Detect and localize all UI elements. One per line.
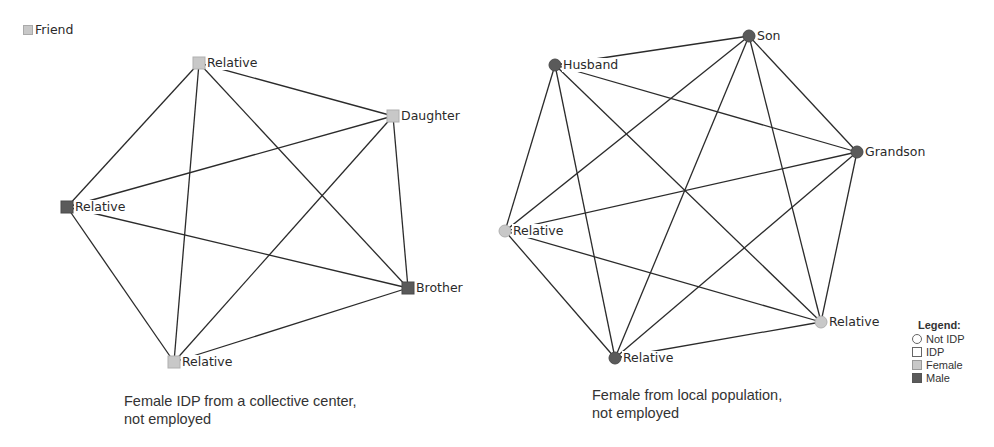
left-caption-line1: Female IDP from a collective center, — [124, 392, 357, 410]
node-label: Relative — [622, 351, 673, 365]
legend-label: IDP — [926, 346, 944, 358]
legend-item-not-idp: Not IDP — [912, 332, 965, 345]
edge — [505, 231, 615, 358]
circle-node-icon — [743, 30, 755, 42]
legend-title: Legend: — [918, 319, 965, 331]
friend-legend: Friend — [23, 22, 73, 37]
node-label: Grandson — [864, 145, 925, 159]
left-caption-line2: not employed — [124, 410, 357, 428]
edge — [199, 63, 408, 288]
edge — [505, 65, 555, 231]
legend-item-idp: IDP — [912, 345, 965, 358]
legend-label: Female — [926, 359, 963, 371]
edge — [199, 63, 393, 116]
legend-item-male: Male — [912, 371, 965, 384]
legend-label: Male — [926, 372, 950, 384]
legend-label: Not IDP — [926, 333, 965, 345]
square-node-icon — [193, 57, 205, 69]
square-outline-icon — [912, 347, 922, 357]
edge — [749, 36, 821, 322]
edge — [505, 36, 749, 231]
edge — [615, 36, 749, 358]
circle-node-icon — [499, 225, 511, 237]
square-node-icon — [402, 282, 414, 294]
node-label: Husband — [562, 58, 618, 72]
edge — [67, 63, 199, 207]
node-label: Brother — [415, 281, 463, 295]
node-label: Relative — [206, 56, 257, 70]
node-label: Relative — [828, 315, 879, 329]
square-node-icon — [61, 201, 73, 213]
node-label: Relative — [181, 355, 232, 369]
network-diagram: Friend RelativeDaughterRelativeBrotherRe… — [0, 0, 994, 447]
edge — [174, 288, 408, 362]
right-caption-line2: not employed — [592, 404, 782, 422]
left-graph-caption: Female IDP from a collective center, not… — [124, 392, 357, 428]
node-label: Daughter — [400, 109, 460, 123]
legend-box: Legend: Not IDP IDP Female Male — [912, 319, 965, 384]
edge — [67, 207, 408, 288]
edge — [393, 116, 408, 288]
circle-node-icon — [549, 59, 561, 71]
circle-outline-icon — [912, 334, 922, 344]
circle-node-icon — [815, 316, 827, 328]
circle-node-icon — [609, 352, 621, 364]
friend-square-icon — [23, 25, 33, 35]
circle-node-icon — [851, 146, 863, 158]
edge — [174, 63, 199, 362]
dark-square-icon — [912, 373, 922, 383]
light-square-icon — [912, 360, 922, 370]
edge — [555, 65, 615, 358]
edges-layer — [0, 0, 994, 447]
square-node-icon — [387, 110, 399, 122]
node-label: Relative — [74, 200, 125, 214]
edge — [67, 207, 174, 362]
right-graph-caption: Female from local population, not employ… — [592, 386, 782, 422]
edge — [749, 36, 857, 152]
node-label: Son — [756, 29, 781, 43]
square-node-icon — [168, 356, 180, 368]
friend-label: Friend — [35, 22, 73, 37]
legend-item-female: Female — [912, 358, 965, 371]
edge — [67, 116, 393, 207]
right-caption-line1: Female from local population, — [592, 386, 782, 404]
edge — [174, 116, 393, 362]
node-label: Relative — [512, 224, 563, 238]
edge — [505, 152, 857, 231]
